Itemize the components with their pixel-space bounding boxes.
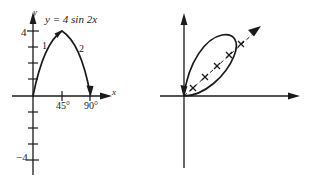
y-axis-arrowhead	[181, 13, 188, 25]
x-tick-label-45deg: 45°	[56, 101, 70, 111]
branch-label-2: 2	[79, 44, 84, 54]
cartesian-sine-figure: y = 4 sin 2x y x 4 −4 45° 90° 1 2	[0, 0, 160, 179]
y-axis-label: y	[33, 8, 37, 17]
x-tick-label-90deg: 90°	[84, 101, 98, 111]
polar-rose-plot	[160, 0, 320, 179]
x-axis-label: x	[112, 88, 116, 97]
equation-label-cartesian: y = 4 sin 2x	[45, 14, 97, 25]
figure-pair: y = 4 sin 2x y x 4 −4 45° 90° 1 2	[0, 0, 320, 179]
x-axis-arrowhead	[288, 93, 300, 100]
y-tick-label-minus-4: −4	[16, 152, 28, 163]
x-axis-arrowhead	[100, 93, 112, 100]
branch-label-1: 1	[42, 41, 47, 51]
polar-rose-figure: r = 4 sin 2θ y x 45° 1 2	[160, 0, 320, 179]
forty-five-degree-ray-arrowhead	[248, 26, 261, 37]
sine-curve-end-arrow	[87, 86, 94, 98]
y-tick-label-4: 4	[21, 27, 27, 38]
